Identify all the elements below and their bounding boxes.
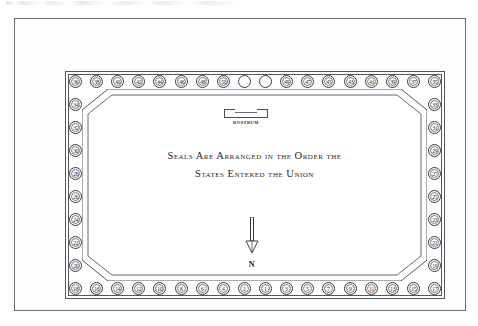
state-seal-29: 29 <box>428 144 441 157</box>
state-seal-41: 41 <box>365 75 378 88</box>
state-seal-31: 31 <box>428 121 441 134</box>
state-seal-11: 11 <box>365 282 378 295</box>
state-seal-35: 35 <box>428 75 441 88</box>
state-seal-7: 7 <box>322 282 335 295</box>
rostrum: ROSTRUM <box>222 109 270 125</box>
state-seal-2: 2 <box>238 282 251 295</box>
state-seal-12: 12 <box>132 282 145 295</box>
state-seal-30: 30 <box>69 144 82 157</box>
state-seal-46: 46 <box>175 75 188 88</box>
inscription-line-2: States Entered the Union <box>82 165 427 183</box>
state-seal-blank <box>238 75 251 88</box>
state-seal-16: 16 <box>90 282 103 295</box>
state-seal-15: 15 <box>407 282 420 295</box>
state-seal-14: 14 <box>111 282 124 295</box>
state-seal-48: 48 <box>196 75 209 88</box>
state-seal-19: 19 <box>428 259 441 272</box>
state-seal-23: 23 <box>428 213 441 226</box>
state-seal-42: 42 <box>132 75 145 88</box>
state-seal-4: 4 <box>217 282 230 295</box>
state-seal-39: 39 <box>386 75 399 88</box>
state-seal-44: 44 <box>153 75 166 88</box>
state-seal-20: 20 <box>69 259 82 272</box>
state-seal-37: 37 <box>407 75 420 88</box>
state-seal-45: 45 <box>322 75 335 88</box>
state-seal-38: 38 <box>90 75 103 88</box>
page-frame: ROSTRUM Seals Are Arranged in the Order … <box>14 18 466 311</box>
state-seal-33: 33 <box>428 98 441 111</box>
state-seal-26: 26 <box>69 190 82 203</box>
state-seal-25: 25 <box>428 190 441 203</box>
state-seal-24: 24 <box>69 213 82 226</box>
state-seal-47: 47 <box>301 75 314 88</box>
state-seal-3: 3 <box>280 282 293 295</box>
rostrum-label: ROSTRUM <box>222 120 270 125</box>
state-seal-50: 50 <box>217 75 230 88</box>
state-seal-5: 5 <box>301 282 314 295</box>
state-seal-27: 27 <box>428 167 441 180</box>
compass-north-label: N <box>241 260 263 269</box>
state-seal-10: 10 <box>153 282 166 295</box>
state-seal-32: 32 <box>69 121 82 134</box>
inscription-line-1: Seals Are Arranged in the Order the <box>82 147 427 165</box>
state-seal-6: 6 <box>196 282 209 295</box>
state-seal-34: 34 <box>69 98 82 111</box>
state-seal-28: 28 <box>69 167 82 180</box>
state-seal-22: 22 <box>69 236 82 249</box>
state-seal-43: 43 <box>344 75 357 88</box>
state-seal-13: 13 <box>386 282 399 295</box>
state-seal-blank <box>259 75 272 88</box>
state-seal-21: 21 <box>428 236 441 249</box>
chamber-inscription: Seals Are Arranged in the Order the Stat… <box>82 147 427 183</box>
state-seal-9: 9 <box>344 282 357 295</box>
state-seal-49: 49 <box>280 75 293 88</box>
state-seal-8: 8 <box>175 282 188 295</box>
north-arrow-icon <box>241 217 263 255</box>
state-seal-18: 18 <box>69 282 82 295</box>
scan-artifact <box>6 1 241 5</box>
rostrum-lip <box>235 112 257 113</box>
state-seal-40: 40 <box>111 75 124 88</box>
rostrum-shape <box>224 109 268 118</box>
state-seal-17: 17 <box>428 282 441 295</box>
state-seal-1: 1 <box>259 282 272 295</box>
state-seal-36: 36 <box>69 75 82 88</box>
compass-indicator: N <box>241 217 263 269</box>
